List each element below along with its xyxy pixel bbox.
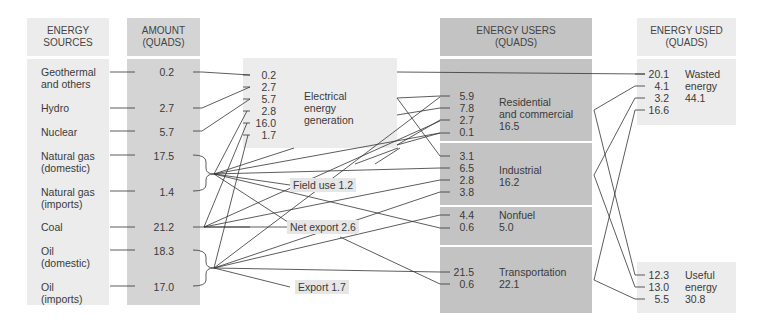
electrical-generation-label: Electrical energy generation	[304, 90, 354, 126]
source-amount: 1.4	[140, 186, 174, 198]
elec-input: 2.7	[250, 81, 276, 93]
nonfuel-label: Nonfuel 5.0	[499, 209, 535, 233]
source-label: Nuclear	[41, 126, 77, 138]
residential-label: Residential and commercial 16.5	[499, 96, 573, 132]
useful-input: 13.0	[645, 281, 669, 293]
user-input: 3.8	[450, 186, 474, 198]
user-input: 0.6	[450, 278, 474, 290]
source-amount: 2.7	[140, 102, 174, 114]
user-input: 21.5	[450, 266, 474, 278]
users-header: ENERGY USERS (QUADS)	[440, 18, 592, 56]
user-input: 3.1	[450, 150, 474, 162]
source-label: Geothermal and others	[41, 66, 96, 90]
source-amount: 5.7	[140, 126, 174, 138]
wasted-input: 3.2	[645, 92, 669, 104]
source-amount: 17.0	[140, 281, 174, 293]
source-label: Oil (imports)	[41, 281, 82, 305]
source-label: Natural gas (domestic)	[41, 150, 95, 174]
source-label: Oil (domestic)	[41, 245, 90, 269]
wasted-input: 16.6	[645, 104, 669, 116]
elec-input: 5.7	[250, 93, 276, 105]
field-use-label: Field use 1.2	[290, 178, 356, 192]
useful-energy-label: Useful energy 30.8	[685, 269, 717, 305]
user-input: 2.8	[450, 174, 474, 186]
user-input: 7.8	[450, 102, 474, 114]
user-input: 0.1	[450, 126, 474, 138]
elec-input: 2.8	[250, 105, 276, 117]
source-label: Coal	[41, 221, 63, 233]
wasted-input: 4.1	[645, 80, 669, 92]
source-label: Hydro	[41, 102, 69, 114]
user-input: 5.9	[450, 90, 474, 102]
source-label: Natural gas (imports)	[41, 186, 95, 210]
elec-input: 16.0	[250, 117, 276, 129]
transportation-label: Transportation 22.1	[499, 266, 566, 290]
source-amount: 0.2	[140, 66, 174, 78]
useful-input: 5.5	[645, 293, 669, 305]
user-input: 0.6	[450, 221, 474, 233]
elec-input: 0.2	[250, 69, 276, 81]
amount-header: AMOUNT (QUADS)	[127, 18, 200, 56]
source-amount: 18.3	[140, 245, 174, 257]
source-amount: 17.5	[140, 150, 174, 162]
export-label: Export 1.7	[295, 280, 349, 294]
wasted-energy-label: Wasted energy 44.1	[685, 68, 720, 104]
used-header: ENERGY USED (QUADS)	[637, 18, 736, 56]
wasted-input: 20.1	[645, 68, 669, 80]
source-amount: 21.2	[140, 221, 174, 233]
net-export-label: Net export 2.6	[287, 220, 359, 234]
user-input: 6.5	[450, 162, 474, 174]
elec-input: 1.7	[250, 129, 276, 141]
user-input: 4.4	[450, 209, 474, 221]
user-input: 2.7	[450, 114, 474, 126]
useful-input: 12.3	[645, 269, 669, 281]
sources-header: ENERGY SOURCES	[27, 18, 109, 56]
industrial-label: Industrial 16.2	[499, 164, 542, 188]
